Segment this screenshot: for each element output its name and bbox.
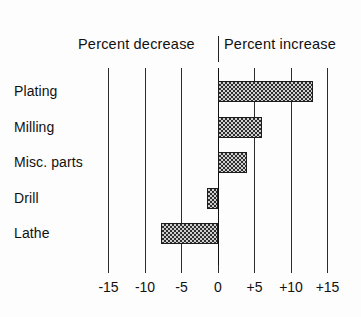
x-tick-label: 0 — [214, 279, 222, 295]
bar-milling — [218, 117, 262, 138]
x-tick-label: +10 — [279, 279, 303, 295]
percent-change-bar-chart: Percent decrease Percent increase -15-10… — [0, 0, 361, 317]
x-tick-+15 — [327, 265, 328, 273]
category-label: Drill — [14, 190, 134, 206]
x-tick--15 — [108, 265, 109, 273]
category-label: Milling — [14, 119, 134, 135]
x-tick-label: -10 — [135, 279, 155, 295]
x-tick--5 — [181, 265, 182, 273]
bar-plating — [218, 81, 313, 102]
x-tick-+10 — [291, 265, 292, 273]
category-label: Plating — [14, 83, 134, 99]
category-label: Misc. parts — [14, 154, 134, 170]
bar-misc-parts — [218, 152, 247, 173]
plot-area: -15-10-50+5+10+15PlatingMillingMisc. par… — [0, 0, 361, 317]
x-tick-label: -5 — [175, 279, 187, 295]
x-tick-label: -15 — [98, 279, 118, 295]
category-label: Lathe — [14, 225, 134, 241]
x-tick-label: +15 — [316, 279, 340, 295]
gridline-+15 — [327, 68, 328, 265]
bar-lathe — [161, 223, 218, 244]
gridline--10 — [145, 68, 146, 265]
x-tick-label: +5 — [247, 279, 263, 295]
bar-drill — [207, 188, 218, 209]
x-tick--10 — [145, 265, 146, 273]
x-tick-+5 — [254, 265, 255, 273]
x-tick-0 — [218, 265, 219, 273]
